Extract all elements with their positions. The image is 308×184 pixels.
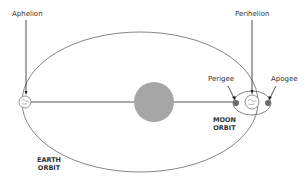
earth-orbit-label-line1: EARTH (37, 156, 61, 164)
perigee-moon-dot (233, 100, 239, 106)
moon-orbit-label-line2: ORBIT (213, 124, 236, 132)
earth-perihelion-icon (245, 95, 259, 109)
aphelion-arrowhead (25, 91, 28, 95)
perihelion-label: Perihelion (235, 10, 269, 18)
perigee-pointer (228, 86, 234, 98)
moon-orbit-label-line1: MOON (213, 116, 236, 124)
perigee-label: Perigee (208, 75, 234, 83)
aphelion-label: Aphelion (12, 10, 43, 18)
moon-orbit-label: MOON ORBIT (213, 116, 236, 132)
earth-orbit-label-line2: ORBIT (37, 164, 61, 172)
apogee-pointer (270, 86, 276, 98)
earth-aphelion-icon (19, 96, 31, 108)
apogee-label: Apogee (271, 75, 298, 83)
sun (134, 82, 174, 122)
perihelion-arrowhead (251, 90, 254, 95)
earth-orbit-label: EARTH ORBIT (37, 156, 61, 172)
apogee-moon-dot (265, 100, 271, 106)
